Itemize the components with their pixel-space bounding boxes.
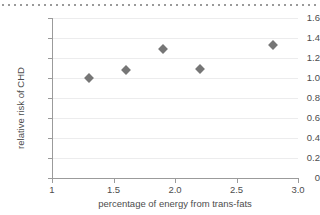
gridline [52,158,298,159]
x-axis-tick-label: 2.0 [155,185,195,195]
data-point-marker [158,44,168,54]
data-point-marker [121,65,131,75]
x-axis-tick [52,179,53,183]
y-axis-tick [48,78,52,79]
y-axis-tick-label: 0.4 [276,133,320,143]
gridline [52,58,298,59]
y-axis-title: relative risk of CHD [15,28,26,188]
y-axis-tick [48,118,52,119]
y-axis-tick-label: 1.6 [276,13,320,23]
x-axis-title: percentage of energy from trans-fats [52,198,298,209]
y-axis-tick [48,38,52,39]
gridline [52,118,298,119]
x-axis-tick-label: 1.5 [94,185,134,195]
x-axis-tick [237,179,238,183]
x-axis-tick [175,179,176,183]
x-axis-tick [114,179,115,183]
y-axis-tick-label: 1.2 [276,53,320,63]
y-axis-tick-label: 1.0 [276,73,320,83]
x-axis-tick-label: 1 [32,185,72,195]
x-axis-tick [298,179,299,183]
y-axis-tick-label: 0.2 [276,153,320,163]
chart-figure: 00.20.40.60.81.01.21.41.6 11.52.02.53.0 … [0,0,320,215]
y-axis-tick [48,18,52,19]
y-axis-tick-label: 0.6 [276,113,320,123]
data-point-marker [195,64,205,74]
dotted-top-rule [0,4,320,6]
gridline [52,98,298,99]
gridline [52,138,298,139]
gridline [52,18,298,19]
x-axis-tick-label: 3.0 [278,185,318,195]
x-axis-tick-label: 2.5 [217,185,257,195]
data-point-marker [84,73,94,83]
y-axis-spine [52,18,53,179]
y-axis-tick [48,158,52,159]
y-axis-tick-label: 0.8 [276,93,320,103]
gridline [52,38,298,39]
y-axis-tick [48,58,52,59]
y-axis-tick-label: 1.4 [276,33,320,43]
y-axis-tick [48,98,52,99]
y-axis-tick [48,138,52,139]
